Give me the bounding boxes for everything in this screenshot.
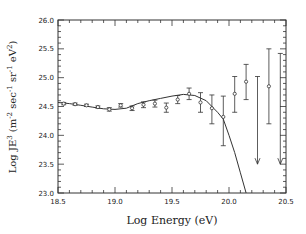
- y-tick-label: 24.5: [38, 103, 54, 111]
- data-point: [95, 105, 100, 108]
- data-point: [118, 104, 123, 107]
- data-point: [221, 96, 226, 146]
- plot-frame: [58, 20, 286, 193]
- data-point: [152, 100, 157, 107]
- x-axis-label: Log Energy (eV): [126, 214, 217, 227]
- y-tick-label: 24.0: [38, 132, 54, 140]
- x-tick-label: 20.0: [221, 198, 237, 206]
- data-point: [198, 93, 203, 113]
- x-tick-label: 19.5: [164, 198, 180, 206]
- upper-limit-arrow: [278, 53, 283, 164]
- y-tick-label: 23.0: [38, 190, 54, 198]
- upper-limit-arrow: [255, 77, 260, 165]
- data-point: [175, 96, 180, 104]
- y-tick-label: 25.5: [38, 45, 54, 53]
- data-point: [244, 64, 249, 99]
- data-point: [164, 103, 169, 112]
- x-tick-label: 18.5: [50, 198, 66, 206]
- y-tick-label: 26.0: [38, 17, 54, 25]
- x-tick-label: 20.5: [278, 198, 294, 206]
- data-point: [232, 77, 237, 113]
- y-axis-label: Log JE3 (m-2 sec-1 sr-1 eV2): [6, 41, 18, 174]
- data-point: [209, 95, 214, 124]
- cosmic-ray-spectrum-chart: 18.519.019.520.020.5 23.023.524.024.525.…: [0, 0, 306, 234]
- y-axis: 23.023.524.024.525.025.526.0: [38, 17, 286, 198]
- y-tick-label: 23.5: [38, 161, 54, 169]
- data-point: [266, 49, 271, 124]
- model-curve: [58, 94, 246, 193]
- data-point: [187, 88, 192, 100]
- data-point: [107, 108, 112, 111]
- x-tick-label: 19.0: [107, 198, 123, 206]
- y-tick-label: 25.0: [38, 74, 54, 82]
- data-point: [73, 103, 78, 106]
- data-point: [84, 104, 89, 107]
- data-point: [61, 102, 66, 105]
